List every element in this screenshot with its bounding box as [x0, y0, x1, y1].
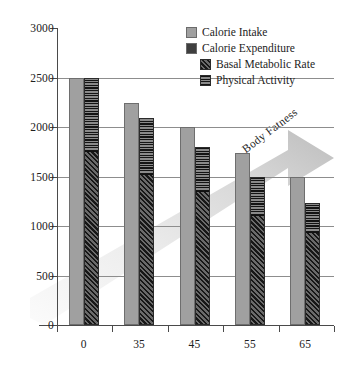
bar-calorie-intake: [180, 127, 195, 325]
legend-item: Calorie Expenditure: [186, 41, 338, 56]
checker-hatch-swatch: [200, 75, 211, 86]
bar-calorie-expenditure: [84, 78, 99, 326]
segment-physical-activity: [306, 204, 319, 233]
bar-calorie-intake: [124, 103, 139, 325]
x-tick-label: 35: [133, 338, 145, 350]
x-tick-mark: [57, 326, 58, 332]
bar-calorie-intake: [290, 177, 305, 326]
x-tick-label: 45: [189, 338, 201, 350]
segment-basal-metabolic-rate: [140, 175, 153, 324]
x-axis-line: [39, 325, 334, 326]
x-tick-mark: [279, 326, 280, 332]
calorie-balance-bar-chart: Body Fatness 050010001500200025003000 03…: [0, 0, 342, 365]
segment-physical-activity: [140, 119, 153, 175]
segment-physical-activity: [251, 178, 264, 216]
segment-basal-metabolic-rate: [196, 192, 209, 324]
segment-basal-metabolic-rate: [251, 216, 264, 324]
y-tick-label: 2500: [30, 72, 54, 84]
bar-calorie-intake: [69, 78, 84, 326]
bar-calorie-intake: [235, 153, 250, 325]
segment-basal-metabolic-rate: [306, 233, 319, 324]
x-tick-mark: [168, 326, 169, 332]
bar-calorie-expenditure: [305, 203, 320, 325]
legend-item-label: Calorie Intake: [202, 26, 267, 39]
x-tick-mark: [334, 326, 335, 332]
legend-item: Basal Metabolic Rate: [186, 57, 338, 72]
legend-item: Physical Activity: [186, 73, 338, 88]
segment-physical-activity: [85, 79, 98, 153]
y-tick-label: 2000: [30, 121, 54, 133]
y-tick-label: 500: [36, 270, 54, 282]
segment-physical-activity: [196, 148, 209, 192]
y-tick-label: 0: [48, 319, 54, 331]
segment-basal-metabolic-rate: [85, 152, 98, 324]
legend-item-label: Basal Metabolic Rate: [216, 58, 315, 71]
solid-light-gray-swatch: [186, 27, 197, 38]
x-tick-mark: [223, 326, 224, 332]
y-tick-label: 1000: [30, 220, 54, 232]
legend-item-label: Calorie Expenditure: [202, 42, 295, 55]
bar-calorie-expenditure: [250, 177, 265, 326]
y-tick-label: 3000: [30, 22, 54, 34]
bar-calorie-expenditure: [195, 147, 210, 325]
solid-dark-gray-swatch: [186, 43, 197, 54]
legend-item-label: Physical Activity: [216, 74, 295, 87]
chart-legend: Calorie IntakeCalorie ExpenditureBasal M…: [186, 25, 338, 89]
bar-calorie-expenditure: [139, 118, 154, 325]
legend-item: Calorie Intake: [186, 25, 338, 40]
x-tick-label: 65: [299, 338, 311, 350]
x-tick-mark: [112, 326, 113, 332]
diagonal-hatch-swatch: [200, 59, 211, 70]
x-tick-label: 0: [81, 338, 87, 350]
y-tick-label: 1500: [30, 171, 54, 183]
x-tick-label: 55: [244, 338, 256, 350]
